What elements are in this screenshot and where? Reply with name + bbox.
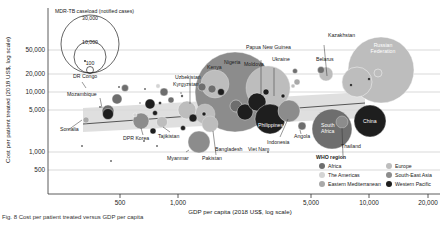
label-philippines: Philippines bbox=[258, 122, 283, 128]
x-tick: 20,000 bbox=[418, 199, 438, 206]
label-ukraine: Ukraine bbox=[272, 56, 290, 62]
label-nigeria: Nigeria bbox=[224, 59, 241, 65]
figure-caption: Fig. 8 Cost per patient treated versus G… bbox=[2, 214, 143, 220]
legend-south-east-asia: South-East Asia bbox=[395, 172, 432, 178]
label-somalia: Somalia bbox=[60, 126, 79, 132]
y-axis-label: Cost per patient treated (2018 US$, log … bbox=[4, 37, 11, 163]
x-tick: 1,000 bbox=[170, 199, 186, 206]
size-100: 100 bbox=[86, 60, 95, 66]
label-indonesia: Indonesia bbox=[267, 139, 290, 145]
label-mozambique: Mozambique bbox=[67, 91, 97, 97]
label-thailand: Thailand bbox=[341, 143, 361, 149]
legend-europe: Europe bbox=[395, 163, 412, 169]
legend-africa: Africa bbox=[328, 163, 341, 169]
legend-western-pacific: Western Pacific bbox=[395, 181, 431, 187]
y-tick: 10,000 bbox=[25, 88, 45, 95]
label-png: Papua New Guinea bbox=[246, 44, 291, 50]
label-uzbekistan: Uzbekistan bbox=[175, 74, 201, 80]
y-tick: 1,000 bbox=[29, 148, 45, 155]
label-bangladesh: Bangladesh bbox=[215, 146, 243, 152]
legend-title: WHO region bbox=[316, 154, 346, 160]
label-belarus: Belarus bbox=[316, 56, 334, 62]
x-tick: 500 bbox=[115, 199, 126, 206]
label-myanmar: Myanmar bbox=[167, 155, 189, 161]
y-tick: 50,000 bbox=[25, 46, 45, 53]
label-tajikistan: Tajikistan bbox=[158, 133, 179, 139]
x-tick: 10,000 bbox=[359, 199, 379, 206]
label-kazakhstan: Kazakhstan bbox=[328, 32, 355, 38]
label-vietnam: Viet Nam bbox=[248, 146, 269, 152]
legend-americas: The Americas bbox=[328, 172, 360, 178]
label-russia-2: Federation bbox=[371, 48, 396, 54]
size-30000: 30,000 bbox=[82, 15, 98, 21]
bubble-chart: 50,000 20,000 10,000 5,000 1,000 500 500… bbox=[0, 0, 447, 228]
legend-eastern-mediterranean: Eastern Mediterranean bbox=[328, 181, 381, 187]
label-dprkorea: DPR Korea bbox=[123, 135, 149, 141]
label-china: China bbox=[363, 118, 377, 124]
label-kenya: Kenya bbox=[207, 64, 222, 70]
label-drcongo: DR Congo bbox=[73, 73, 97, 79]
y-tick: 5,000 bbox=[29, 106, 45, 113]
size-legend-title: MDR-TB caseload (notified cases) bbox=[55, 8, 134, 14]
y-tick-labels: 50,000 20,000 10,000 5,000 1,000 500 bbox=[25, 46, 45, 173]
size-10000: 10,000 bbox=[82, 39, 98, 45]
size-legend: MDR-TB caseload (notified cases) 30,000 … bbox=[55, 8, 134, 74]
label-angola: Angola bbox=[294, 133, 310, 139]
label-southafrica-2: Africa bbox=[321, 128, 334, 134]
x-tick: 5,000 bbox=[303, 199, 319, 206]
x-axis-label: GDP per capita (2018 US$, log scale) bbox=[188, 208, 291, 215]
label-india: India bbox=[226, 135, 237, 141]
y-tick: 500 bbox=[34, 166, 45, 173]
label-moldova: Moldova bbox=[244, 61, 264, 67]
y-tick: 20,000 bbox=[25, 70, 45, 77]
label-kyrgyzstan: Kyrgyzstan bbox=[173, 81, 199, 87]
label-pakistan: Pakistan bbox=[202, 155, 222, 161]
x-tick-labels: 500 1,000 5,000 10,000 20,000 bbox=[115, 199, 439, 206]
region-legend: WHO region Africa The Americas Eastern M… bbox=[316, 154, 432, 187]
